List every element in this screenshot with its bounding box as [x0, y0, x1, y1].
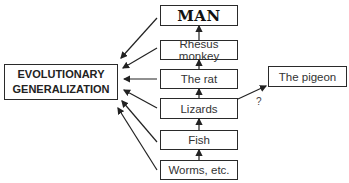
man-label: MAN	[177, 7, 220, 25]
fish-box: Fish	[160, 130, 238, 150]
fish-label: Fish	[188, 134, 210, 146]
worms-box: Worms, etc.	[160, 160, 238, 180]
evolutionary-generalization-box: EVOLUTIONARY GENERALIZATION	[4, 64, 118, 100]
rat-box: The rat	[160, 69, 238, 89]
worms-label: Worms, etc.	[168, 164, 229, 176]
rat-label: The rat	[181, 73, 217, 85]
man-box: MAN	[160, 5, 238, 26]
lizards-label: Lizards	[180, 103, 217, 115]
rhesus-monkey-label: Rhesus monkey	[161, 38, 237, 62]
pigeon-box: The pigeon	[268, 66, 347, 87]
evolutionary-label-line2: GENERALIZATION	[13, 82, 110, 97]
question-mark-label: ?	[256, 96, 262, 107]
evolutionary-label-line1: EVOLUTIONARY	[13, 67, 110, 82]
rhesus-monkey-box: Rhesus monkey	[160, 40, 238, 60]
pigeon-label: The pigeon	[279, 71, 337, 83]
lizards-box: Lizards	[160, 98, 238, 119]
